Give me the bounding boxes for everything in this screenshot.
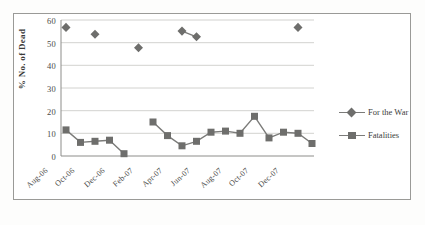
diamond-marker-icon <box>339 106 365 118</box>
legend-label-for-the-war: For the War <box>368 107 408 118</box>
chart-frame: % No. of Dead 60 50 40 30 20 10 0 Aug-06… <box>13 13 411 200</box>
gridlines <box>61 20 314 133</box>
legend-item-for-the-war: For the War <box>339 104 425 120</box>
legend-item-fatalities: Fatalities <box>339 127 425 143</box>
chart-legend: For the War Fatalities <box>339 104 425 143</box>
series-fatalities <box>63 113 316 157</box>
series-for-the-war <box>61 23 302 52</box>
chart-figure: % No. of Dead 60 50 40 30 20 10 0 Aug-06… <box>0 0 425 225</box>
square-marker-icon <box>339 129 365 141</box>
legend-label-fatalities: Fatalities <box>368 130 399 141</box>
